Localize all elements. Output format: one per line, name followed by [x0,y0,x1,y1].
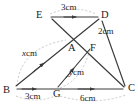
vertex-label-b: B [3,85,10,96]
measure-label-gc: 6cm [80,94,96,103]
vertex-label-g: G [53,89,61,100]
segment-bd-arrow [33,63,44,72]
measure-label-bg: 3cm [25,92,41,101]
measure-label-ba: xcm [22,49,37,58]
figure-canvas [0,0,138,108]
vertex-label-a: A [68,43,76,54]
vertex-label-f: F [90,43,96,54]
measure-label-gf: ycm [69,68,84,77]
vertex-label-c: C [128,83,135,94]
geometry-figure: E D A F B G C 3cm 2cm xcm ycm 3cm 6cm [0,0,138,108]
measure-unit-x: cm [26,48,37,58]
measure-unit-y: cm [73,67,84,77]
measure-label-da: 2cm [98,27,114,36]
vertex-label-d: D [101,10,109,21]
vertex-label-e: E [36,10,42,21]
measure-label-ed: 3cm [61,3,77,12]
